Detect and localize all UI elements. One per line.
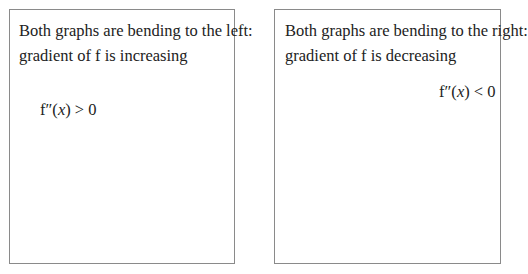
left-caption: Both graphs are bending to the left: gra… — [19, 18, 253, 68]
left-panel: Both graphs are bending to the left: gra… — [9, 9, 235, 264]
right-panel: Both graphs are bending to the right: gr… — [274, 9, 501, 264]
left-formula-suffix: ) > 0 — [65, 100, 96, 119]
right-formula: f″(x) < 0 — [439, 82, 496, 102]
right-caption-line2: gradient of f is decreasing — [285, 43, 528, 68]
right-caption-line1: Both graphs are bending to the right: — [285, 18, 528, 43]
right-formula-prefix: f″( — [439, 82, 457, 101]
left-caption-line1: Both graphs are bending to the left: — [19, 18, 253, 43]
right-formula-suffix: ) < 0 — [464, 82, 495, 101]
left-formula: f″(x) > 0 — [40, 100, 97, 120]
left-caption-line2: gradient of f is increasing — [19, 43, 253, 68]
right-caption: Both graphs are bending to the right: gr… — [285, 18, 528, 68]
left-formula-prefix: f″( — [40, 100, 58, 119]
